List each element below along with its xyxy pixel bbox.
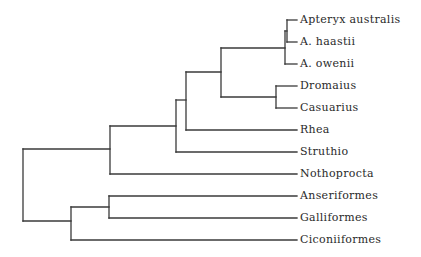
taxon-label-ciconiiformes: Ciconiiformes xyxy=(300,234,381,246)
taxon-label-casuarius: Casuarius xyxy=(300,102,358,114)
taxon-label-a-owenii: A. owenii xyxy=(300,58,354,70)
taxon-label-nothoprocta: Nothoprocta xyxy=(300,168,374,180)
taxon-label-struthio: Struthio xyxy=(300,146,348,158)
taxon-label-apteryx-australis: Apteryx australis xyxy=(300,14,400,26)
taxon-label-galliformes: Galliformes xyxy=(300,212,368,224)
taxon-label-a-haastii: A. haastii xyxy=(300,36,355,48)
taxon-label-anseriformes: Anseriformes xyxy=(300,190,378,202)
taxon-label-dromaius: Dromaius xyxy=(300,80,356,92)
taxon-label-rhea: Rhea xyxy=(300,124,330,136)
